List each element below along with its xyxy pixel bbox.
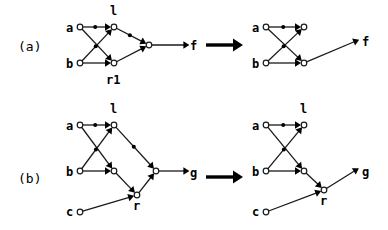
edge-c-to-r bbox=[83, 194, 134, 211]
edge-a-to-l bbox=[83, 121, 111, 128]
node-b[interactable] bbox=[77, 60, 83, 66]
node-label-a: a bbox=[66, 21, 73, 35]
edge-b-to-mid bbox=[269, 167, 301, 174]
edge-line bbox=[268, 29, 299, 59]
inverter-dot-icon bbox=[282, 147, 286, 151]
node-b[interactable] bbox=[263, 168, 269, 174]
edge-arrowhead-icon bbox=[147, 173, 154, 180]
edge-mid-to-r bbox=[306, 173, 322, 188]
edge-r1-to-out bbox=[116, 46, 146, 62]
edge-line bbox=[82, 29, 110, 58]
node-mid[interactable] bbox=[301, 168, 307, 174]
edge-line bbox=[116, 48, 143, 62]
node-l[interactable] bbox=[301, 122, 307, 128]
node-label-c: c bbox=[252, 205, 259, 219]
edge-arrowhead-icon bbox=[183, 167, 189, 174]
node-c[interactable] bbox=[77, 209, 83, 215]
figure-canvas: (a)ablr1fabf(b)abclrgabclrg bbox=[0, 0, 388, 230]
row-b: (b)abclrgabclrg bbox=[18, 102, 369, 219]
edge-a-to-l bbox=[269, 23, 301, 30]
graph-b-after: abclrg bbox=[252, 102, 369, 219]
node-label-g: g bbox=[362, 165, 369, 179]
edge-line bbox=[83, 197, 131, 211]
edge-line bbox=[116, 173, 133, 190]
edge-arrowhead-icon bbox=[105, 59, 111, 66]
edge-a-to-l bbox=[269, 121, 301, 128]
edge-r-to-out bbox=[139, 173, 154, 192]
inverter-dot-icon bbox=[128, 33, 132, 37]
node-a[interactable] bbox=[77, 122, 83, 128]
node-label-r: r bbox=[320, 194, 327, 208]
edge-line bbox=[82, 127, 111, 166]
inverter-dot-icon bbox=[93, 25, 97, 29]
edge-l-to-out bbox=[116, 127, 154, 169]
edge-b-to-mid bbox=[83, 167, 111, 174]
edge-arrowhead-icon bbox=[105, 23, 111, 30]
node-label-a: a bbox=[66, 119, 73, 133]
row-label-row-a: (a) bbox=[18, 39, 41, 54]
transform-arrow-row-a bbox=[206, 39, 243, 52]
node-label-l: l bbox=[110, 4, 117, 18]
edge-arrowhead-icon bbox=[295, 121, 301, 128]
node-label-c: c bbox=[66, 205, 73, 219]
edge-arrowhead-icon bbox=[183, 41, 189, 48]
node-label-b: b bbox=[252, 165, 259, 179]
node-r[interactable] bbox=[301, 60, 307, 66]
node-out[interactable] bbox=[146, 42, 152, 48]
node-label-r1: r1 bbox=[106, 73, 120, 87]
edge-line bbox=[307, 41, 356, 62]
row-a: (a)ablr1fabf bbox=[18, 4, 369, 87]
node-a[interactable] bbox=[77, 24, 83, 30]
node-label-r: r bbox=[133, 199, 140, 213]
inverter-dot-icon bbox=[282, 44, 286, 48]
inverter-dot-icon bbox=[281, 123, 285, 127]
node-label-b: b bbox=[252, 57, 259, 71]
edge-arrowhead-icon bbox=[105, 121, 111, 128]
diagram-svg: (a)ablr1fabf(b)abclrgabclrg bbox=[0, 0, 388, 230]
transform-arrow-row-b bbox=[206, 171, 243, 184]
transform-arrow-head-icon bbox=[233, 171, 243, 184]
inverter-dot-icon bbox=[93, 123, 97, 127]
node-r1[interactable] bbox=[111, 60, 117, 66]
node-l[interactable] bbox=[301, 24, 307, 30]
edge-line bbox=[326, 170, 356, 189]
node-label-l: l bbox=[300, 102, 307, 116]
edge-l-to-out bbox=[116, 28, 146, 44]
node-c[interactable] bbox=[263, 209, 269, 215]
edge-arrowhead-icon bbox=[295, 167, 301, 174]
inverter-dot-icon bbox=[94, 44, 98, 48]
inverter-dot-icon bbox=[132, 145, 136, 149]
edge-b-to-r bbox=[269, 59, 301, 66]
node-a[interactable] bbox=[263, 24, 269, 30]
node-b[interactable] bbox=[77, 168, 83, 174]
node-r[interactable] bbox=[321, 187, 327, 193]
node-r[interactable] bbox=[134, 192, 140, 198]
node-l[interactable] bbox=[111, 122, 117, 128]
node-label-l: l bbox=[110, 102, 117, 116]
edge-line bbox=[306, 173, 319, 186]
graph-a-after: abf bbox=[252, 21, 369, 71]
inverter-dot-icon bbox=[281, 25, 285, 29]
edge-a-to-l bbox=[83, 23, 111, 30]
edge-out-to-g bbox=[159, 167, 190, 174]
node-a[interactable] bbox=[263, 122, 269, 128]
edge-out-to-f bbox=[152, 41, 190, 48]
edge-mid-to-r bbox=[116, 173, 135, 193]
edge-b-to-r1 bbox=[83, 59, 111, 66]
node-label-a: a bbox=[252, 119, 259, 133]
edge-r-to-g bbox=[326, 168, 359, 188]
edge-arrowhead-icon bbox=[106, 127, 113, 134]
edge-line bbox=[269, 192, 318, 211]
inverter-dot-icon bbox=[94, 147, 98, 151]
node-b[interactable] bbox=[263, 60, 269, 66]
graph-b-before: abclrg bbox=[66, 102, 197, 219]
node-out[interactable] bbox=[153, 168, 159, 174]
node-mid[interactable] bbox=[111, 168, 117, 174]
node-label-b: b bbox=[66, 165, 73, 179]
node-l[interactable] bbox=[111, 24, 117, 30]
transform-arrow-head-icon bbox=[233, 39, 243, 52]
graph-a-before: ablr1f bbox=[66, 4, 197, 87]
node-label-g: g bbox=[190, 166, 197, 180]
row-label-row-b: (b) bbox=[18, 171, 41, 186]
diagram-content: (a)ablr1fabf(b)abclrgabclrg bbox=[18, 4, 369, 219]
